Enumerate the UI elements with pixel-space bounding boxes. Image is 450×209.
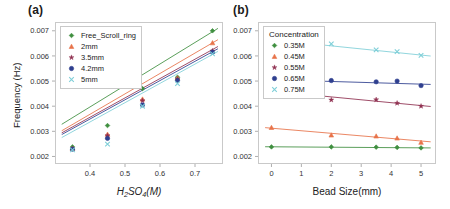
legend-item: 5mm <box>65 74 136 85</box>
panel-b: (b) Bead Size(mm) 0.0020.0030.0040.0050.… <box>225 0 450 209</box>
x-tick-label: 2 <box>329 169 333 178</box>
data-point <box>105 136 109 140</box>
figure-container: (a) Frequency (Hz) H2SO4(M) 0.0020.0030.… <box>0 0 450 209</box>
legend-item: 0.65M <box>268 73 319 84</box>
legend-item: 3.5mm <box>65 52 136 63</box>
circle-marker-icon <box>65 63 78 74</box>
legend-label: 0.65M <box>284 74 305 83</box>
trend-line <box>265 147 431 148</box>
y-tick-label: 0.005 <box>30 77 49 86</box>
legend-item: 2mm <box>65 41 136 52</box>
data-point <box>395 49 400 54</box>
data-point <box>105 123 110 128</box>
y-tick-label: 0.002 <box>30 152 49 161</box>
panel-b-plot-svg: 0.0020.0030.0040.0050.0060.007012345 <box>225 0 450 209</box>
legend-title: Concentration <box>269 30 319 39</box>
data-point <box>395 101 400 106</box>
legend-label: 3.5mm <box>81 53 104 62</box>
y-tick-label: 0.007 <box>233 26 252 35</box>
x-marker-icon <box>65 74 78 85</box>
data-point <box>105 142 110 147</box>
legend-item: 0.35M <box>268 40 319 51</box>
diamond-marker-icon <box>65 30 78 41</box>
legend-label: 5mm <box>81 75 98 84</box>
star-marker-icon <box>65 52 78 63</box>
x-tick-label: 0 <box>269 169 273 178</box>
data-point <box>374 80 378 84</box>
legend-label: 0.45M <box>284 52 305 61</box>
data-point <box>269 145 274 150</box>
data-point <box>419 146 424 151</box>
y-tick-label: 0.006 <box>233 52 252 61</box>
data-point <box>329 97 334 102</box>
y-tick-label: 0.002 <box>233 152 252 161</box>
x-tick-label: 5 <box>419 169 423 178</box>
x-marker-icon <box>268 84 281 95</box>
y-tick-label: 0.005 <box>233 77 252 86</box>
legend-item: 0.45M <box>268 51 319 62</box>
data-point <box>395 79 399 83</box>
trend-line <box>265 128 431 142</box>
circle-marker-icon <box>268 73 281 84</box>
triangle-marker-icon <box>268 51 281 62</box>
y-tick-label: 0.007 <box>30 26 49 35</box>
data-point <box>419 83 423 87</box>
legend-label: 0.35M <box>284 41 305 50</box>
data-point <box>395 145 400 150</box>
y-tick-label: 0.003 <box>30 127 49 136</box>
legend-item: Free_Scroll_ring <box>65 30 136 41</box>
y-tick-label: 0.003 <box>233 127 252 136</box>
data-point <box>374 134 379 138</box>
x-tick-label: 0.4 <box>85 169 95 178</box>
y-tick-label: 0.006 <box>30 52 49 61</box>
legend-item: 0.75M <box>268 84 319 95</box>
data-point <box>419 104 424 109</box>
y-tick-label: 0.004 <box>233 102 252 111</box>
data-point <box>140 98 145 103</box>
panel-a-legend: Free_Scroll_ring2mm3.5mm4.2mm5mm <box>60 26 142 89</box>
x-tick-label: 3 <box>359 169 363 178</box>
triangle-marker-icon <box>65 41 78 52</box>
legend-label: 4.2mm <box>81 64 104 73</box>
diamond-marker-icon <box>268 40 281 51</box>
panel-a: (a) Frequency (Hz) H2SO4(M) 0.0020.0030.… <box>0 0 225 209</box>
data-point <box>329 78 333 82</box>
legend-label: 0.55M <box>284 63 305 72</box>
legend-item: 0.55M <box>268 62 319 73</box>
star-marker-icon <box>268 62 281 73</box>
data-point <box>374 145 379 150</box>
x-tick-label: 1 <box>299 169 303 178</box>
panel-b-legend: Concentration0.35M0.45M0.55M0.65M0.75M <box>263 26 325 99</box>
y-tick-label: 0.004 <box>30 102 49 111</box>
data-point <box>269 125 274 129</box>
legend-label: 0.75M <box>284 85 305 94</box>
x-tick-label: 4 <box>389 169 393 178</box>
data-point <box>395 136 400 140</box>
x-tick-label: 0.6 <box>155 169 165 178</box>
legend-label: Free_Scroll_ring <box>81 31 136 40</box>
legend-item: 4.2mm <box>65 63 136 74</box>
x-tick-label: 0.7 <box>190 169 200 178</box>
data-point <box>210 41 215 45</box>
legend-label: 2mm <box>81 42 98 51</box>
data-point <box>329 145 334 150</box>
x-tick-label: 0.5 <box>120 169 130 178</box>
